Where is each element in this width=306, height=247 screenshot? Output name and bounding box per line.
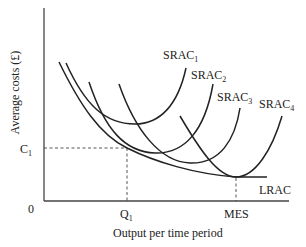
- srac3-label: SRAC3: [217, 91, 252, 103]
- srac4-curve: [180, 116, 282, 177]
- lrac-curve: [59, 62, 267, 177]
- chart-canvas: [0, 0, 306, 247]
- x-axis-label: Output per time period: [113, 227, 223, 239]
- srac2-label: SRAC2: [191, 69, 226, 81]
- c1-label: C1: [20, 143, 32, 155]
- srac4-label: SRAC4: [259, 98, 294, 110]
- mes-label: MES: [224, 208, 249, 220]
- origin-label: 0: [28, 203, 34, 215]
- srac1-label: SRAC1: [163, 49, 198, 61]
- lrac-label: LRAC: [259, 184, 291, 196]
- q1-label: Q1: [120, 208, 133, 220]
- y-axis-label: Average costs (£): [8, 38, 23, 148]
- srac1-curve: [66, 63, 186, 124]
